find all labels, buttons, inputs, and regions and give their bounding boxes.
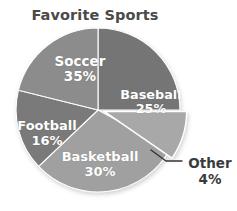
slice-label-basketball-name: Basketball [62,149,139,164]
slice-label-baseball: Baseball 25% [109,88,193,117]
slice-label-other-value: 4% [183,172,237,188]
slice-label-soccer-value: 35% [34,69,126,84]
slice-label-football-value: 16% [8,134,86,149]
slice-label-baseball-value: 25% [109,102,193,116]
slice-label-football: Football 16% [8,119,86,148]
slice-label-soccer-name: Soccer [55,53,106,69]
slice-label-other: Other 4% [183,156,237,188]
pie-chart-figure: Favorite Sports Soccer 35% Baseball 2 [0,0,237,211]
slice-label-basketball-value: 30% [50,165,150,180]
slice-label-baseball-name: Baseball [120,87,181,102]
slice-label-football-name: Football [17,118,76,133]
slice-label-basketball: Basketball 30% [50,150,150,179]
slice-label-other-name: Other [188,155,231,171]
slice-label-soccer: Soccer 35% [34,54,126,84]
